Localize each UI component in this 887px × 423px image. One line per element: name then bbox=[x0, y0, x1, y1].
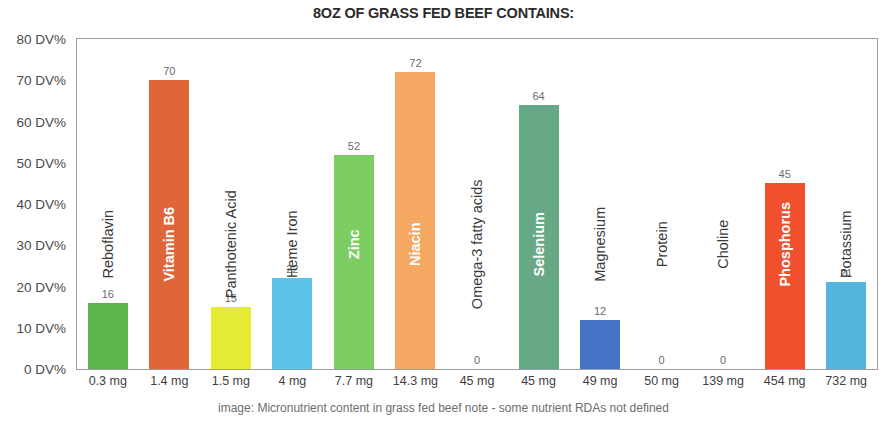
x-axis-tick: 732 mg bbox=[825, 374, 867, 388]
bar-value-label: 64 bbox=[532, 90, 544, 102]
bar[interactable] bbox=[334, 155, 374, 370]
bar-group[interactable]: 52Zinc bbox=[323, 39, 385, 369]
y-axis-tick: 60 DV% bbox=[0, 114, 66, 129]
y-axis: 0 DV%10 DV%20 DV%30 DV%40 DV%50 DV%60 DV… bbox=[0, 38, 72, 370]
x-axis-tick: 4 mg bbox=[278, 374, 306, 388]
bar-group[interactable]: 21Potassium bbox=[815, 39, 877, 369]
y-axis-tick: 50 DV% bbox=[0, 155, 66, 170]
bar-category-label: Protein bbox=[654, 221, 669, 267]
y-axis-tick: 30 DV% bbox=[0, 238, 66, 253]
bar-value-label: 45 bbox=[779, 168, 791, 180]
bar[interactable] bbox=[211, 307, 251, 369]
chart-caption: image: Micronutrient content in grass fe… bbox=[0, 401, 887, 415]
bar-value-label: 12 bbox=[594, 305, 606, 317]
bar-value-label: 52 bbox=[348, 140, 360, 152]
y-axis-tick: 40 DV% bbox=[0, 197, 66, 212]
bar[interactable] bbox=[88, 303, 128, 369]
bar-value-label: 0 bbox=[474, 354, 480, 366]
bar-group[interactable]: 16Reboflavin bbox=[77, 39, 139, 369]
bar-value-label: 70 bbox=[163, 65, 175, 77]
x-axis-tick: 45 mg bbox=[521, 374, 556, 388]
y-axis-tick: 70 DV% bbox=[0, 73, 66, 88]
x-axis-tick: 1.5 mg bbox=[212, 374, 250, 388]
bar-group[interactable]: 72Niacin bbox=[385, 39, 447, 369]
x-axis-tick: 1.4 mg bbox=[150, 374, 188, 388]
bar-group[interactable]: 15Panthotenic Acid bbox=[200, 39, 262, 369]
bar[interactable] bbox=[580, 320, 620, 370]
bar-group[interactable]: 0Choline bbox=[692, 39, 754, 369]
x-axis-tick: 14.3 mg bbox=[393, 374, 438, 388]
bar-category-label: Heme Iron bbox=[285, 210, 300, 278]
bar-category-label: Panthotenic Acid bbox=[224, 190, 239, 298]
x-axis: 0.3 mg1.4 mg1.5 mg4 mg7.7 mg14.3 mg45 mg… bbox=[77, 374, 877, 396]
x-axis-tick: 50 mg bbox=[644, 374, 679, 388]
bar-group[interactable]: 70Vitamin B6 bbox=[139, 39, 201, 369]
bar-group[interactable]: 0Protein bbox=[631, 39, 693, 369]
bar-category-label: Selenium bbox=[531, 212, 546, 276]
bar-group[interactable]: 64Selenium bbox=[508, 39, 570, 369]
x-axis-tick: 139 mg bbox=[702, 374, 744, 388]
chart-page: 8OZ OF GRASS FED BEEF CONTAINS: 0 DV%10 … bbox=[0, 0, 887, 423]
bar-category-label: Phosphorus bbox=[777, 201, 792, 286]
x-axis-tick: 45 mg bbox=[460, 374, 495, 388]
x-axis-tick: 0.3 mg bbox=[89, 374, 127, 388]
bar-value-label: 0 bbox=[720, 354, 726, 366]
bar-group[interactable]: 12Magnesium bbox=[569, 39, 631, 369]
bar-category-label: Potassium bbox=[839, 210, 854, 278]
bar[interactable] bbox=[395, 72, 435, 369]
y-axis-tick: 10 DV% bbox=[0, 320, 66, 335]
bar-group[interactable]: 22Heme Iron bbox=[262, 39, 324, 369]
y-axis-tick: 20 DV% bbox=[0, 279, 66, 294]
bar-category-label: Vitamin B6 bbox=[162, 206, 177, 281]
x-axis-tick: 454 mg bbox=[764, 374, 806, 388]
chart-title: 8OZ OF GRASS FED BEEF CONTAINS: bbox=[0, 5, 887, 21]
bar-value-label: 72 bbox=[409, 57, 421, 69]
bar-category-label: Omega-3 fatty acids bbox=[470, 179, 485, 309]
bar[interactable] bbox=[272, 278, 312, 369]
bar-category-label: Choline bbox=[716, 219, 731, 268]
x-axis-tick: 49 mg bbox=[583, 374, 618, 388]
bar-category-label: Reboflavin bbox=[101, 209, 116, 278]
bar-category-label: Zinc bbox=[347, 229, 362, 259]
bar-category-label: Niacin bbox=[408, 222, 423, 266]
bar[interactable] bbox=[826, 282, 866, 369]
bar-value-label: 0 bbox=[659, 354, 665, 366]
y-axis-tick: 0 DV% bbox=[0, 362, 66, 377]
bars-layer: 16Reboflavin70Vitamin B615Panthotenic Ac… bbox=[77, 39, 877, 369]
bar-value-label: 16 bbox=[102, 288, 114, 300]
bar-group[interactable]: 45Phosphorus bbox=[754, 39, 816, 369]
bar-category-label: Magnesium bbox=[593, 206, 608, 281]
x-axis-tick: 7.7 mg bbox=[335, 374, 373, 388]
bar-group[interactable]: 0Omega-3 fatty acids bbox=[446, 39, 508, 369]
y-axis-tick: 80 DV% bbox=[0, 32, 66, 47]
